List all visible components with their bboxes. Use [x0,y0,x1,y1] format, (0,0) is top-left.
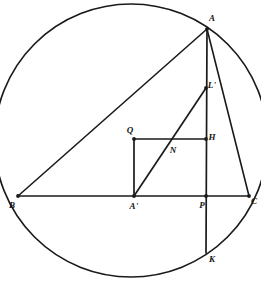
chord-A-B [18,29,207,196]
point-label-a: A [209,14,215,23]
vertex-dot-ap [132,194,136,198]
point-label-n: N [170,146,177,155]
vertex-dot-a [205,27,209,31]
point-label-lp: L' [208,81,216,90]
vertex-dot-q [132,137,136,141]
vertex-dot-b [16,194,20,198]
point-label-k: K [209,255,215,264]
chord-A-C [207,29,249,196]
point-label-q: Q [127,126,134,135]
circumcircle [0,4,261,277]
point-label-ap: A' [130,202,139,211]
altitude-A-K [206,29,207,253]
point-label-p: P [199,201,205,210]
geometry-canvas [0,0,261,287]
vertex-dot-h [204,137,208,141]
median-Ap-Lp [134,88,206,196]
point-label-h: H [208,133,215,142]
vertex-dot-p [204,194,208,198]
geometry-figure: ABCA'L'QHNPK [0,0,261,287]
point-label-c: C [251,197,257,206]
point-label-b: B [9,201,15,210]
